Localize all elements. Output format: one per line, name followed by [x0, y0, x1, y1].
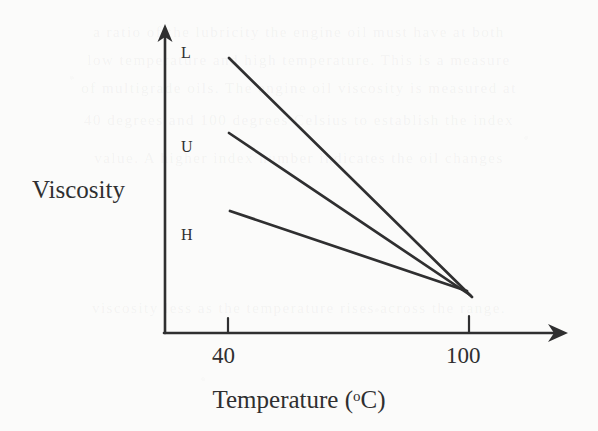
x-axis-label: Temperature (oC): [0, 386, 598, 414]
data-series-group: [229, 58, 472, 297]
y-axis: [158, 24, 173, 333]
series-line-H: [230, 211, 467, 291]
series-label-U: U: [181, 138, 193, 156]
x-tick-label-40: 40: [212, 343, 235, 369]
figure-canvas: a ratio of the lubricity the engine oil …: [0, 0, 598, 431]
series-line-U: [229, 133, 470, 295]
x-axis-label-text: Temperature (: [212, 386, 353, 413]
y-axis-label: Viscosity: [32, 176, 125, 204]
series-line-L: [229, 58, 472, 297]
x-axis: [164, 316, 568, 342]
chart-plot-area: [0, 0, 598, 431]
x-tick-label-100: 100: [446, 343, 481, 369]
x-axis-label-unit: C): [361, 386, 386, 413]
series-label-H: H: [181, 226, 193, 244]
series-label-L: L: [181, 44, 191, 62]
degree-symbol-icon: o: [353, 388, 361, 404]
